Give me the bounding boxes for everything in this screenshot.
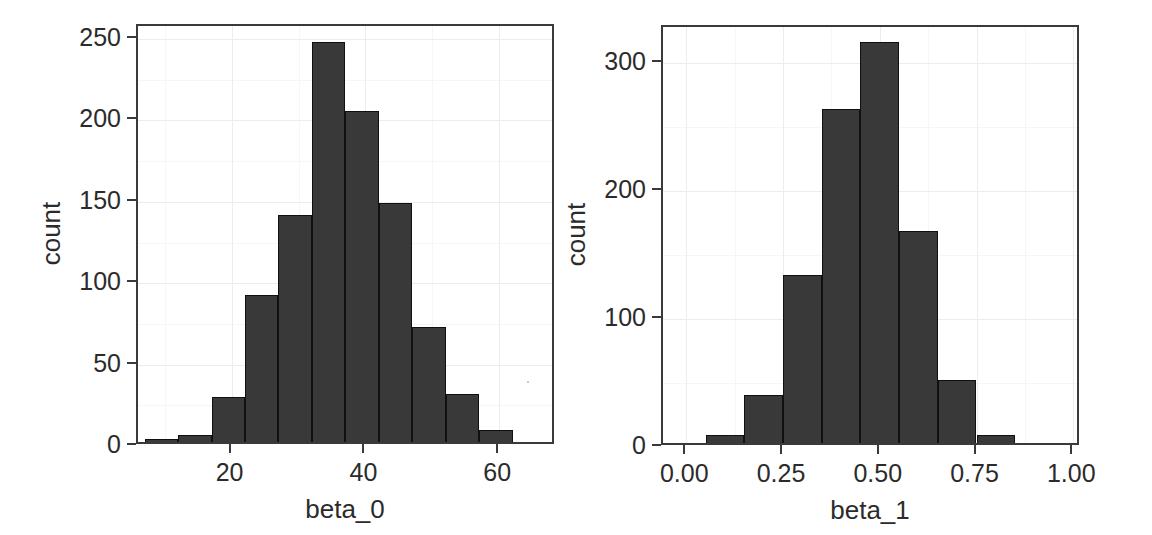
gridline-minor-vertical [1025, 27, 1026, 443]
x-axis-tick-label: 20 [216, 458, 244, 487]
y-axis-label-left: count [36, 114, 67, 354]
histogram-bar [212, 397, 245, 444]
gridline-minor-vertical [165, 26, 166, 442]
histogram-bar [312, 42, 345, 444]
gridline-major-horizontal [138, 39, 552, 40]
x-axis-tick-label: 40 [349, 458, 377, 487]
plot-panel-left [136, 24, 554, 444]
y-axis-tick [127, 280, 136, 282]
y-axis-tick-label: 300 [526, 46, 646, 75]
x-axis-tick [362, 444, 364, 453]
histogram-bar [345, 111, 378, 444]
histogram-bar [822, 109, 861, 445]
histogram-bar [446, 394, 479, 444]
histogram-bar [706, 435, 745, 445]
histogram-bar [412, 327, 445, 444]
y-axis-tick [652, 316, 661, 318]
x-axis-tick-label: 0.50 [853, 459, 902, 488]
histogram-bar [899, 231, 938, 445]
y-axis-tick-label: 0 [1, 430, 121, 459]
histogram-bar [783, 275, 822, 445]
y-axis-tick [652, 444, 661, 446]
histogram-bar [938, 380, 977, 445]
x-axis-tick [496, 444, 498, 453]
x-axis-tick [683, 445, 685, 454]
gridline-major-vertical [499, 26, 500, 442]
facet-beta-1: count beta_1 01002003000.000.250.500.751… [576, 0, 1152, 535]
facet-beta-0: count beta_0 050100150200250204060 [0, 0, 576, 535]
gridline-major-vertical [686, 27, 687, 443]
histogram-figure: count beta_0 050100150200250204060 count… [0, 0, 1152, 535]
y-axis-tick [127, 199, 136, 201]
y-axis-tick-label: 150 [1, 185, 121, 214]
histogram-bar [245, 295, 278, 444]
x-axis-tick-label: 0.75 [950, 459, 999, 488]
y-axis-tick-label: 0 [526, 431, 646, 460]
x-axis-tick-label: 1.00 [1047, 459, 1096, 488]
x-axis-tick [1070, 445, 1072, 454]
plot-panel-right [661, 25, 1079, 445]
gridline-minor-vertical [735, 27, 736, 443]
y-axis-tick [127, 443, 136, 445]
x-axis-tick-label: 60 [483, 458, 511, 487]
histogram-bar [744, 395, 783, 446]
histogram-bar [178, 435, 211, 444]
y-axis-tick-label: 100 [1, 267, 121, 296]
scan-artifact-speck [527, 381, 529, 383]
histogram-bar [145, 439, 178, 444]
histogram-bar [278, 215, 311, 444]
y-axis-tick-label: 100 [526, 302, 646, 331]
x-axis-label-left: beta_0 [136, 494, 554, 525]
y-axis-tick-label: 50 [1, 348, 121, 377]
x-axis-label-right: beta_1 [661, 495, 1079, 526]
x-axis-tick-label: 0.25 [757, 459, 806, 488]
histogram-bar [977, 435, 1016, 445]
y-axis-tick-label: 200 [526, 174, 646, 203]
x-axis-tick [974, 445, 976, 454]
gridline-major-vertical [232, 26, 233, 442]
x-axis-tick [229, 444, 231, 453]
y-axis-tick-label: 200 [1, 104, 121, 133]
x-axis-tick [877, 445, 879, 454]
y-axis-tick [127, 36, 136, 38]
y-axis-tick-label: 250 [1, 23, 121, 52]
histogram-bar [479, 430, 512, 444]
gridline-major-vertical [977, 27, 978, 443]
histogram-bar [379, 203, 412, 444]
y-axis-tick [127, 362, 136, 364]
x-axis-tick [780, 445, 782, 454]
y-axis-tick [652, 60, 661, 62]
gridline-major-vertical [1073, 27, 1074, 443]
histogram-bar [860, 42, 899, 445]
y-axis-tick [652, 188, 661, 190]
y-axis-tick [127, 117, 136, 119]
x-axis-tick-label: 0.00 [660, 459, 709, 488]
